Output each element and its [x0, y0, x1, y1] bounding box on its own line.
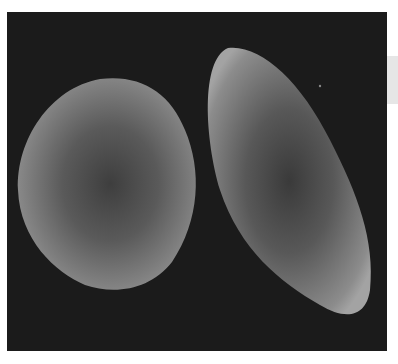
round-cell: [18, 78, 196, 290]
cells-illustration: [0, 0, 398, 364]
debris-speck: [319, 85, 321, 87]
elongated-cell: [208, 48, 371, 315]
